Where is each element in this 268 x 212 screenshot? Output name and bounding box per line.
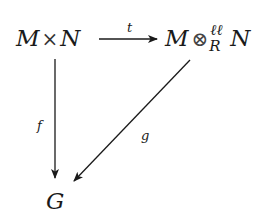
arrow-label-g: g (141, 129, 149, 142)
arrow-label-t: t (127, 21, 132, 34)
otimes-operator: ⊗ (192, 27, 209, 51)
tensor-superscript: ℓℓ (210, 23, 223, 38)
node-g-codomain: G (46, 190, 64, 212)
tensor-m: M (165, 25, 189, 51)
tensor-subscript: R (209, 39, 220, 54)
arrow-label-f: f (37, 119, 42, 132)
node-m: M (16, 25, 40, 51)
tensor-scripts: ℓℓR (208, 27, 230, 50)
node-m-times-n: M×N (16, 27, 80, 50)
arrow-g (74, 60, 190, 181)
commutative-diagram: M×N M⊗ℓℓRN G t f g (0, 0, 268, 212)
node-tensor-product: M⊗ℓℓRN (165, 27, 250, 50)
tensor-n: N (230, 25, 250, 51)
times-operator: × (42, 27, 59, 51)
codomain-label: G (46, 188, 64, 212)
node-n: N (60, 25, 80, 51)
